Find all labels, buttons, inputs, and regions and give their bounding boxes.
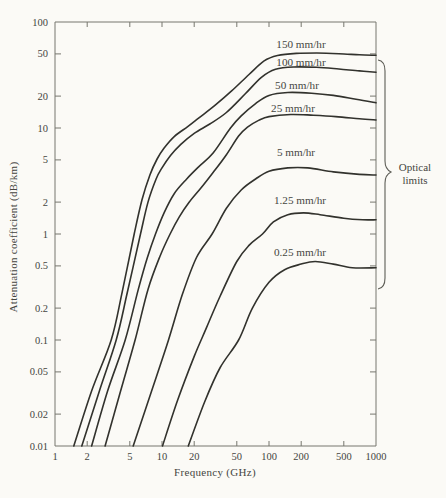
y-tick-label: 0.02	[30, 409, 48, 420]
x-tick-label: 5	[127, 451, 132, 462]
optical-limits-annotation: Optical limits	[392, 161, 438, 187]
y-axis-title: Attenuation coefficient (dB/km)	[7, 162, 19, 313]
curve-25-mm-hr	[105, 114, 376, 446]
y-tick-label: 50	[38, 48, 49, 59]
curve-150-mm-hr-label: 150 mm/hr	[276, 38, 326, 50]
x-tick-label: 500	[336, 451, 352, 462]
y-tick-label: 2	[43, 197, 48, 208]
curve-1.25-mm-hr	[163, 213, 377, 446]
x-tick-label: 2	[85, 451, 90, 462]
x-tick-label: 50	[232, 451, 243, 462]
y-tick-label: 0.01	[30, 441, 48, 452]
y-tick-label: 1	[43, 229, 48, 240]
x-tick-label: 20	[189, 451, 200, 462]
curve-50-mm-hr-label: 50 mm/hr	[275, 79, 319, 91]
curve-5-mm-hr	[133, 167, 376, 446]
curve-100-mm-hr-label: 100 mm/hr	[276, 56, 326, 68]
x-tick-label: 10	[157, 451, 168, 462]
x-tick-label: 1	[52, 451, 57, 462]
y-tick-label: 10	[38, 123, 49, 134]
y-tick-label: 5	[43, 154, 48, 165]
curve-100-mm-hr	[82, 67, 376, 446]
curve-150-mm-hr	[74, 53, 376, 446]
y-tick-label: 20	[38, 91, 49, 102]
curve-0.25-mm-hr	[188, 262, 376, 447]
y-tick-label: 0.2	[35, 303, 48, 314]
curve-25-mm-hr-label: 25 mm/hr	[271, 102, 315, 114]
x-tick-label: 100	[261, 451, 277, 462]
curve-5-mm-hr-label: 5 mm/hr	[277, 146, 315, 158]
curve-1.25-mm-hr-label: 1.25 mm/hr	[274, 194, 326, 206]
curve-50-mm-hr	[92, 92, 376, 446]
x-tick-label: 1000	[366, 451, 387, 462]
attenuation-vs-frequency-plot: 12510205010020050010001005020105210.50.2…	[0, 0, 446, 498]
chart-canvas: 12510205010020050010001005020105210.50.2…	[0, 0, 446, 498]
x-tick-label: 200	[293, 451, 309, 462]
optical-limits-line2: limits	[392, 174, 438, 187]
y-tick-label: 0.05	[30, 366, 48, 377]
y-tick-label: 100	[32, 17, 48, 28]
y-tick-label: 0.1	[35, 335, 48, 346]
y-tick-label: 0.5	[35, 260, 48, 271]
optical-limits-line1: Optical	[392, 161, 438, 174]
curve-0.25-mm-hr-label: 0.25 mm/hr	[274, 246, 326, 258]
plot-frame	[55, 22, 376, 446]
x-axis-title: Frequency (GHz)	[174, 466, 256, 478]
optical-limits-brace	[378, 60, 391, 289]
